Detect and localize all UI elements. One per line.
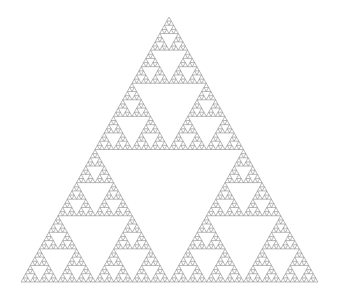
fractal-path [21,17,318,282]
sierpinski-triangle [0,0,337,296]
